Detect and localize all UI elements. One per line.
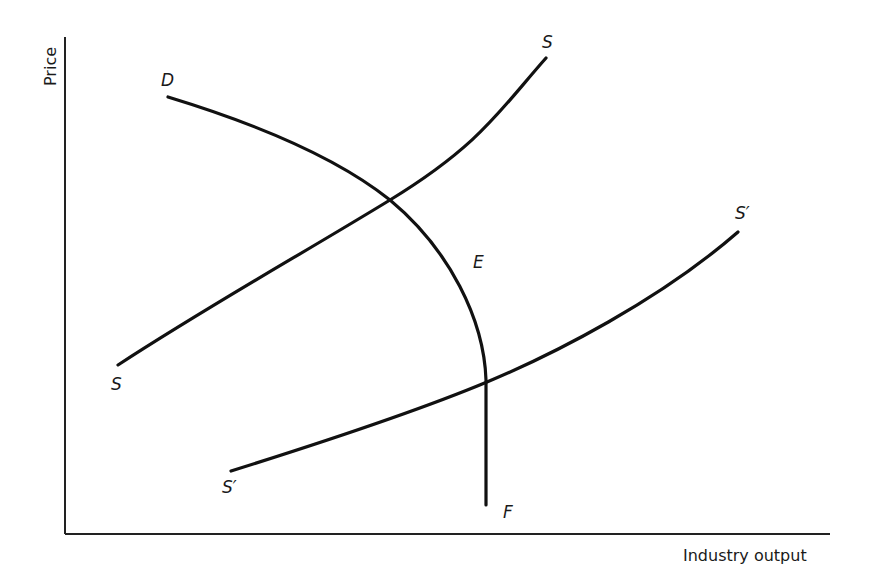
label-s-prime-bottom: S′	[222, 477, 237, 497]
label-s-prime-top: S′	[735, 203, 750, 223]
demand-curve-d	[168, 97, 486, 505]
diagram-canvas	[0, 0, 872, 580]
x-axis-title: Industry output	[683, 546, 807, 565]
label-s-top: S	[542, 32, 553, 52]
label-e: E	[473, 252, 484, 272]
y-axis-title: Price	[41, 47, 60, 86]
supply-curve-s	[118, 58, 546, 365]
label-s-bottom: S	[111, 374, 122, 394]
label-d: D	[161, 70, 174, 90]
label-f: F	[503, 502, 513, 522]
